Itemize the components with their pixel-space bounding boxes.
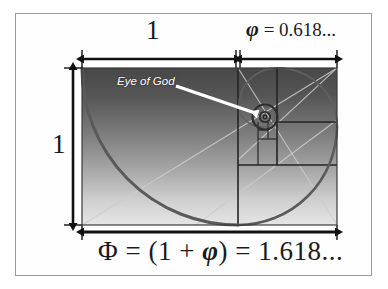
phi-value-text: = 0.618...: [259, 19, 336, 40]
formula-prefix: Φ = (1 +: [98, 236, 202, 266]
label-formula: Φ = (1 + φ) = 1.618...: [98, 238, 343, 265]
dimension-top-unit: [82, 50, 236, 68]
golden-ratio-figure: 1 1 φ = 0.618... Φ = (1 + φ) = 1.618... …: [0, 0, 388, 289]
label-left-height: 1: [52, 131, 66, 158]
dimension-top-phi: [240, 50, 337, 68]
formula-phi-symbol: φ: [202, 236, 218, 266]
label-eye-of-god: Eye of God: [117, 76, 175, 88]
label-phi-value: φ = 0.618...: [246, 18, 336, 40]
dimension-left-height: [64, 68, 82, 225]
phi-symbol: φ: [246, 16, 259, 41]
formula-suffix: ) = 1.618...: [218, 236, 343, 266]
label-top-width: 1: [146, 17, 160, 44]
